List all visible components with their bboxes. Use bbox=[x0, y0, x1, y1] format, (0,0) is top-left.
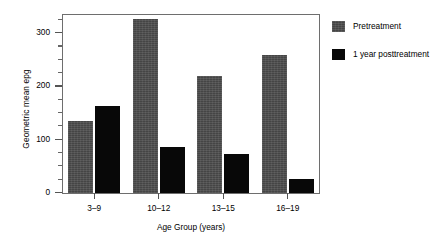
legend-swatch-posttreatment bbox=[332, 49, 345, 60]
bar-posttreatment bbox=[289, 179, 314, 193]
legend-label-pretreatment: Pretreatment bbox=[353, 21, 401, 31]
y-tick-major bbox=[55, 139, 62, 140]
x-tick-label: 10–12 bbox=[129, 203, 189, 213]
y-tick-major bbox=[55, 85, 62, 86]
bar-posttreatment bbox=[224, 154, 249, 193]
y-tick-label: 200 bbox=[10, 81, 50, 89]
x-tick-major bbox=[223, 193, 224, 199]
bar-pretreatment bbox=[197, 76, 222, 192]
x-axis-line bbox=[62, 193, 320, 194]
legend-label-posttreatment: 1 year posttreatment bbox=[353, 49, 429, 59]
y-tick-major bbox=[55, 192, 62, 193]
legend-item-posttreatment: 1 year posttreatment bbox=[332, 48, 429, 60]
x-axis-label: Age Group (years) bbox=[62, 222, 320, 232]
y-tick-label: 0 bbox=[10, 188, 50, 196]
bar-posttreatment bbox=[160, 147, 185, 193]
y-tick-label: 100 bbox=[10, 135, 50, 143]
bar-posttreatment bbox=[95, 106, 120, 193]
x-tick-major bbox=[287, 193, 288, 199]
y-axis-label: Geometric mean epg bbox=[21, 39, 31, 179]
y-tick-label: 300 bbox=[10, 28, 50, 36]
y-tick-major bbox=[55, 32, 62, 33]
x-tick-label: 3–9 bbox=[64, 203, 124, 213]
bars-layer bbox=[62, 14, 320, 193]
legend-swatch-pretreatment bbox=[332, 21, 345, 32]
bar-pretreatment bbox=[68, 121, 93, 193]
bar-pretreatment bbox=[133, 19, 158, 193]
x-tick-major bbox=[158, 193, 159, 199]
bar-chart-figure: Geometric mean epg 0100200300 3–910–1213… bbox=[0, 0, 433, 250]
chart-legend: Pretreatment 1 year posttreatment bbox=[332, 20, 429, 76]
bar-pretreatment bbox=[262, 55, 287, 193]
x-tick-label: 13–15 bbox=[193, 203, 253, 213]
x-tick-label: 16–19 bbox=[258, 203, 318, 213]
x-tick-major bbox=[94, 193, 95, 199]
legend-item-pretreatment: Pretreatment bbox=[332, 20, 429, 32]
